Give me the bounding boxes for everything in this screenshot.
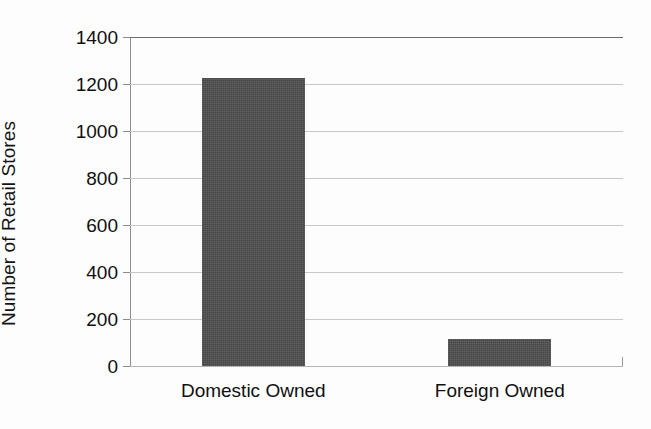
y-axis-title: Number of Retail Stores [0,0,40,429]
y-axis-tick-label: 1400 [44,28,118,47]
y-axis-tick [123,225,130,226]
y-axis-tick [123,37,130,38]
y-axis-tick-label: 400 [44,263,118,282]
bar [202,78,305,366]
x-axis-category-labels: Domestic OwnedForeign Owned [130,380,623,410]
bar [448,339,551,366]
y-axis-tick-label: 1200 [44,75,118,94]
y-axis-title-label: Number of Retail Stores [0,121,20,326]
y-axis-tick [123,84,130,85]
y-axis-tick [123,178,130,179]
y-axis-line [130,37,131,366]
y-axis-tick-label: 800 [44,169,118,188]
gridline [130,366,623,367]
y-axis-tick [123,272,130,273]
y-axis-tick-label: 200 [44,310,118,329]
y-axis-tick [123,131,130,132]
y-axis-tick [123,319,130,320]
x-axis-category-label: Domestic Owned [181,380,326,402]
x-axis-category-label: Foreign Owned [435,380,565,402]
right-axis-tick [622,357,623,366]
y-axis-tick-label: 1000 [44,122,118,141]
y-axis-tick [123,366,130,367]
gridline [130,37,623,38]
y-axis-tick-label: 0 [44,357,118,376]
plot-area [130,37,623,366]
y-axis-tick-labels: 0200400600800100012001400 [44,37,118,366]
y-axis-tick-label: 600 [44,216,118,235]
bar-chart: Number of Retail Stores 0200400600800100… [0,0,651,429]
